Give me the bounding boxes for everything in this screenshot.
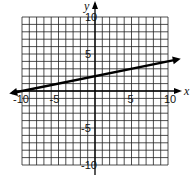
x-tick-label: -5 — [50, 93, 60, 105]
line-arrow-left-icon — [9, 88, 18, 96]
y-tick-label: -5 — [81, 122, 91, 134]
y-tick-label: -10 — [81, 159, 97, 171]
line-arrow-right-icon — [172, 56, 181, 64]
x-tick-label: 5 — [128, 93, 134, 105]
y-tick-label: 10 — [85, 11, 97, 23]
x-axis-label: x — [183, 84, 190, 98]
y-tick-label: 5 — [85, 48, 91, 60]
x-tick-label: 10 — [164, 93, 176, 105]
coordinate-graph: xy-10-5510105-5-10 — [0, 0, 193, 182]
chart-svg: xy-10-5510105-5-10 — [0, 0, 193, 182]
y-axis-arrow-icon — [92, 1, 98, 9]
